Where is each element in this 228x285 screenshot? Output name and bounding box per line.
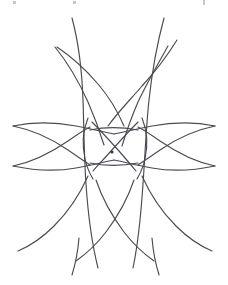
knot-diagram-figure [0,0,228,285]
basepoint-dot [110,150,113,153]
knot-diagram-canvas [0,0,228,285]
crop-tick-1 [13,1,16,4]
crop-tick-2 [73,1,76,4]
crop-tick-3 [203,0,205,5]
